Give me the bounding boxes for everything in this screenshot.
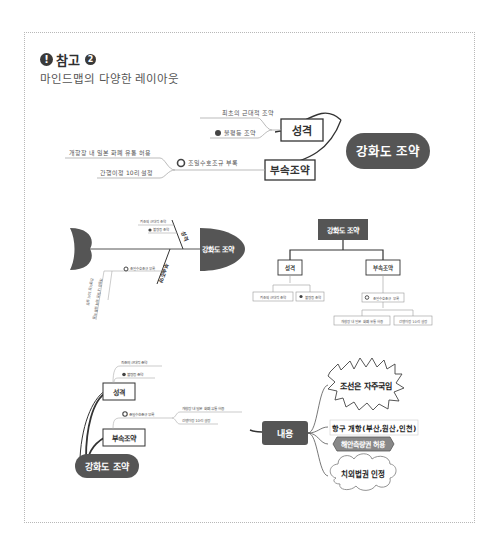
layout4-branch-busokjoyak[interactable]: 부속조약 [103,429,145,446]
layout3-root-label: 강화도 조약 [327,226,360,235]
sad-face-icon [215,130,221,136]
layout1-leaf: 조일수호조규 부록 [188,159,238,167]
layout3-leaf: 간행이정 10리 설정 [399,319,427,324]
layout4-leaf: 불평등 조약 [127,372,144,377]
layout2-branch-label: 성격 [179,230,190,242]
layout2-leaf: 조일수호조규 부록 [130,266,156,271]
gear-icon [124,267,128,271]
layout-logic-chart: 강화도 조약 성격 최초의 근대적 조약 불평등 조약 부속조약 조일수호조규 … [65,109,430,180]
layout3-branch-seonggyeok[interactable]: 성격 [278,260,302,275]
layout1-leaf: 간행이정 10리 설정 [100,169,153,177]
layout3-leaf: 최초의 근대적 조약 [260,295,287,300]
layout1-leaf: 최초의 근대적 조약 [222,109,274,117]
layout1-leaf: 개항장 내 일본 화폐 유통 허용 [69,149,151,157]
layout4-branch-label: 부속조약 [112,434,137,443]
layout1-branch-busokjoyak[interactable]: 부속조약 [265,160,315,180]
layout2-leaf: 불평등 조약 [153,227,170,232]
layout4-item-port[interactable]: 항구 개항(부산,원산,인천) [330,420,418,435]
layout2-root-label: 강화도 조약 [202,245,235,254]
gear-icon [178,160,185,167]
layout-org-chart: 강화도 조약 성격 부속조약 최초의 근대적 조약 불평등 조약 조일수호조규 … [253,219,432,325]
layout4-item-label: 치외법권 인정 [341,469,386,479]
layout4-item-starburst[interactable]: 조선은 자주국임 [328,358,404,410]
layout2-leaf: 간행이정 10리 설정 [85,278,95,306]
layout1-branch-label: 부속조약 [270,164,310,176]
gear-icon [123,412,127,416]
layout4-content-node[interactable]: 내용 [262,421,308,445]
layout2-leaf: 최초의 근대적 조약 [140,219,167,224]
layout3-root-node[interactable]: 강화도 조약 [318,219,368,240]
layout1-branch-seonggyeok[interactable]: 성격 [281,119,323,141]
layout3-leaf: 조일수호조규 부록 [373,296,399,301]
sad-face-icon [148,228,151,231]
layout4-leaf: 간행이정 10리 설정 [182,418,211,423]
layout1-root-node[interactable]: 강화도 조약 [346,133,430,169]
layout4-root-label: 강화도 조약 [85,461,129,472]
layout4-leaf: 최초의 근대적 조약 [121,360,148,365]
layout4-item-hexagon[interactable]: 해안측량권 허용 [333,437,394,451]
layout-fishbone: 강화도 조약 성격 최초의 근대적 조약 불평등 조약 부속조약 조일수호조규 … [70,219,245,321]
layout3-leaf: 개항장 내 일본 화폐 유통 허용 [341,319,384,324]
layout-free-map: 강화도 조약 성격 최초의 근대적 조약 불평등 조약 부속조약 조일수호조규 … [75,358,418,490]
layout4-content-label: 내용 [277,428,293,439]
layout3-leaf: 불평등 조약 [305,295,322,300]
layout4-branch-seonggyeok[interactable]: 성격 [103,383,135,400]
layout4-root-node[interactable]: 강화도 조약 [75,454,139,478]
layout3-branch-busokjoyak[interactable]: 부속조약 [366,260,400,275]
layout3-branch-label: 부속조약 [373,264,393,272]
layout1-root-label: 강화도 조약 [356,144,420,159]
mindmap-canvas: 강화도 조약 성격 최초의 근대적 조약 불평등 조약 부속조약 조일수호조규 … [0,0,501,544]
sad-face-icon [299,295,302,298]
sad-face-icon [122,373,126,377]
layout4-leaf: 조일수호조규 부록 [129,412,155,417]
layout4-item-cloud[interactable]: 치외법권 인정 [330,454,396,491]
layout4-item-label: 조선은 자주국임 [340,381,392,391]
layout3-branch-label: 성격 [285,264,295,272]
layout1-branch-label: 성격 [292,124,312,138]
layout4-item-label: 항구 개항(부산,원산,인천) [332,424,417,433]
layout2-branch-label: 부속조약 [156,262,170,284]
layout4-item-label: 해안측량권 허용 [341,440,386,449]
layout1-leaf: 불평등 조약 [224,129,256,137]
layout4-leaf: 개항장 내 일본 화폐 유통 허용 [182,406,225,411]
layout4-branch-label: 성격 [113,388,125,397]
